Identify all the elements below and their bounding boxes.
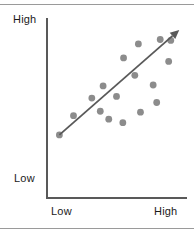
- data-point: [165, 58, 172, 65]
- y-axis-low-label: Low: [14, 172, 35, 184]
- y-axis-high-label: High: [13, 13, 36, 25]
- scatter-canvas: [0, 0, 194, 232]
- data-point: [100, 82, 107, 89]
- data-point: [113, 93, 120, 100]
- data-point: [97, 108, 104, 115]
- x-axis-high-label: High: [154, 205, 177, 217]
- data-point: [119, 119, 126, 126]
- scatter-plot-figure: High Low Low High: [0, 0, 194, 232]
- data-point: [153, 99, 160, 106]
- data-point: [131, 72, 138, 79]
- data-point: [88, 95, 95, 102]
- trend-line-group: [59, 30, 179, 135]
- data-point: [70, 112, 77, 119]
- data-point: [157, 36, 164, 43]
- data-point: [150, 82, 157, 89]
- data-point: [120, 54, 127, 61]
- x-axis-low-label: Low: [51, 205, 72, 217]
- data-point: [105, 116, 112, 123]
- data-point: [137, 109, 144, 116]
- data-point: [135, 40, 142, 47]
